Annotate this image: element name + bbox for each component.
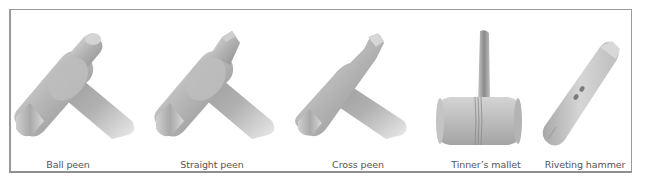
hammer-riveting: Riveting hammer — [530, 9, 630, 173]
riveting-hammer-icon — [530, 9, 630, 149]
cross-peen-hammer-icon — [280, 9, 420, 149]
caption-straight-peen: Straight peen — [180, 159, 243, 170]
hammer-cross-peen: Cross peen — [280, 9, 420, 173]
ball-peen-hammer-icon — [0, 9, 140, 149]
hammer-ball-peen: Ball peen — [0, 9, 140, 173]
caption-ball-peen: Ball peen — [46, 159, 89, 170]
tinners-mallet-icon — [420, 9, 530, 149]
caption-cross-peen: Cross peen — [332, 159, 384, 170]
caption-tinners-mallet: Tinner’s mallet — [451, 159, 520, 170]
hammer-tinners-mallet: Tinner’s mallet — [420, 9, 530, 173]
hammer-straight-peen: Straight peen — [140, 9, 280, 173]
straight-peen-hammer-icon — [140, 9, 280, 149]
caption-riveting-hammer: Riveting hammer — [545, 159, 626, 170]
